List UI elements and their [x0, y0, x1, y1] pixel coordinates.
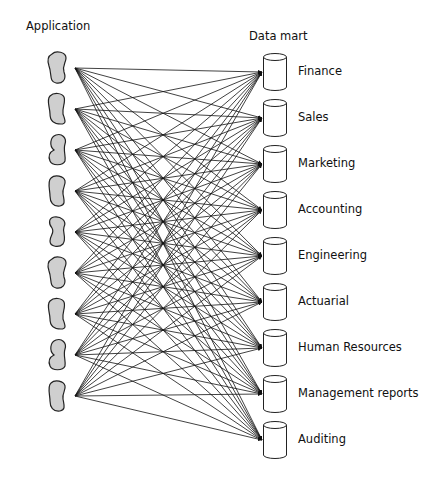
connection-arrow: [75, 72, 262, 109]
data-mart-label: Actuarial: [298, 294, 349, 308]
application-3-shape: [49, 135, 65, 165]
connection-arrow: [75, 348, 262, 396]
connection-arrow: [75, 72, 262, 150]
connection-arrow: [75, 232, 262, 256]
database-cylinder-icon: [264, 54, 287, 91]
data-mart-label: Accounting: [298, 202, 362, 216]
database-cylinder-icon: [264, 100, 287, 137]
connection-arrow: [75, 210, 262, 273]
database-cylinder-icon: [264, 330, 287, 367]
database-cylinder-icon: [264, 376, 287, 413]
database-cylinder-icon: [264, 192, 287, 229]
application-7-shape: [48, 298, 65, 329]
database-cylinder-icon: [264, 146, 287, 183]
data-mart-label: Management reports: [298, 386, 419, 400]
connection-arrow: [75, 118, 262, 273]
connection-arrow: [75, 68, 262, 164]
application-1-shape: [48, 52, 66, 83]
data-mart-label: Auditing: [298, 432, 346, 446]
diagram-canvas: [0, 0, 427, 479]
data-mart-label: Engineering: [298, 248, 367, 262]
connection-arrow: [75, 109, 262, 164]
connection-arrow: [75, 68, 262, 72]
data-mart-label: Sales: [298, 110, 329, 124]
connection-lines: [75, 68, 262, 440]
database-cylinder-icon: [264, 238, 287, 275]
application-5-shape: [50, 217, 65, 247]
connection-arrow: [75, 164, 262, 232]
connection-arrow: [75, 150, 262, 256]
application-6-shape: [48, 257, 66, 288]
application-2-shape: [48, 93, 65, 124]
connection-arrow: [75, 394, 262, 396]
data-mart-label: Marketing: [298, 156, 355, 170]
connection-arrow: [75, 118, 262, 232]
application-shapes: [48, 52, 66, 411]
data-mart-label: Human Resources: [298, 340, 402, 354]
application-9-shape: [49, 381, 65, 411]
data-mart-cylinders: [264, 54, 287, 459]
application-8-shape: [49, 340, 65, 370]
database-cylinder-icon: [264, 422, 287, 459]
connection-arrow: [75, 118, 262, 355]
connection-arrow: [75, 164, 262, 396]
connection-arrow: [75, 210, 262, 396]
database-cylinder-icon: [264, 284, 287, 321]
data-mart-label: Finance: [298, 64, 342, 78]
connection-arrow: [75, 118, 262, 150]
application-4-shape: [49, 176, 65, 206]
connection-arrow: [75, 68, 262, 210]
